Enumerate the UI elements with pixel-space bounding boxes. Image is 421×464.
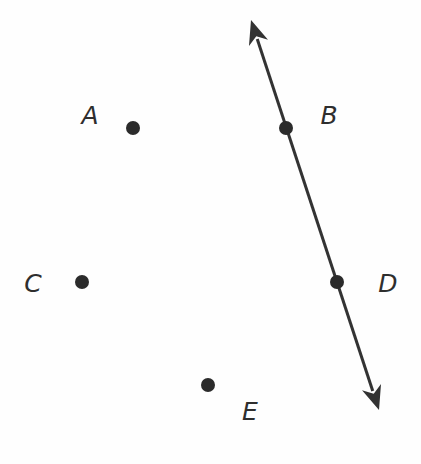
- label-a: A: [81, 103, 98, 128]
- diagram-svg: [0, 0, 421, 464]
- point-d: [330, 275, 344, 289]
- line-segment: [257, 39, 373, 391]
- point-e: [201, 378, 215, 392]
- geometry-diagram: A B C D E: [0, 0, 421, 464]
- label-b: B: [320, 103, 337, 128]
- line-bd: [249, 20, 381, 410]
- points: [75, 121, 344, 392]
- point-b: [279, 121, 293, 135]
- label-c: C: [24, 271, 41, 296]
- point-c: [75, 275, 89, 289]
- point-a: [126, 121, 140, 135]
- label-e: E: [242, 399, 258, 424]
- label-d: D: [378, 271, 397, 296]
